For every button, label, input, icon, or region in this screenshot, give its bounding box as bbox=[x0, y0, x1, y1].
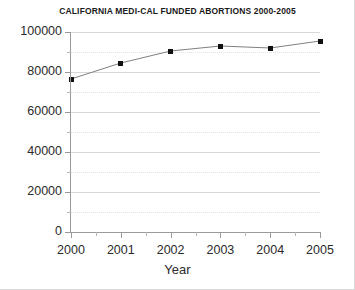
chart-figure: CALIFORNIA MEDI-CAL FUNDED ABORTIONS 200… bbox=[0, 0, 355, 290]
y-tick-label: 80000 bbox=[0, 64, 62, 78]
x-tick bbox=[320, 232, 321, 238]
y-tick-minor bbox=[67, 132, 71, 133]
y-tick bbox=[65, 72, 71, 73]
data-point bbox=[268, 46, 273, 51]
x-tick-minor bbox=[245, 232, 246, 236]
data-point bbox=[218, 44, 223, 49]
x-tick-minor bbox=[96, 232, 97, 236]
y-tick-label: 20000 bbox=[0, 184, 62, 198]
x-axis-title: Year bbox=[0, 262, 355, 277]
y-tick-label: 0 bbox=[0, 224, 62, 238]
y-tick-label: 40000 bbox=[0, 144, 62, 158]
data-point bbox=[318, 39, 323, 44]
y-tick bbox=[65, 32, 71, 33]
y-tick-minor bbox=[67, 172, 71, 173]
x-tick-label: 2005 bbox=[290, 243, 350, 257]
y-tick-minor bbox=[67, 212, 71, 213]
y-tick-minor bbox=[67, 92, 71, 93]
y-tick bbox=[65, 112, 71, 113]
x-tick bbox=[71, 232, 72, 238]
x-tick bbox=[171, 232, 172, 238]
data-point bbox=[168, 49, 173, 54]
x-tick-minor bbox=[196, 232, 197, 236]
y-tick bbox=[65, 192, 71, 193]
y-tick-label: 100000 bbox=[0, 24, 62, 38]
series-line bbox=[71, 32, 320, 232]
x-tick-minor bbox=[146, 232, 147, 236]
x-tick bbox=[270, 232, 271, 238]
x-tick bbox=[220, 232, 221, 238]
y-tick bbox=[65, 152, 71, 153]
x-tick-minor bbox=[295, 232, 296, 236]
x-tick bbox=[121, 232, 122, 238]
plot-area bbox=[71, 32, 320, 232]
data-point bbox=[118, 61, 123, 66]
y-tick-minor bbox=[67, 52, 71, 53]
y-tick-label: 60000 bbox=[0, 104, 62, 118]
chart-title: CALIFORNIA MEDI-CAL FUNDED ABORTIONS 200… bbox=[0, 6, 355, 16]
